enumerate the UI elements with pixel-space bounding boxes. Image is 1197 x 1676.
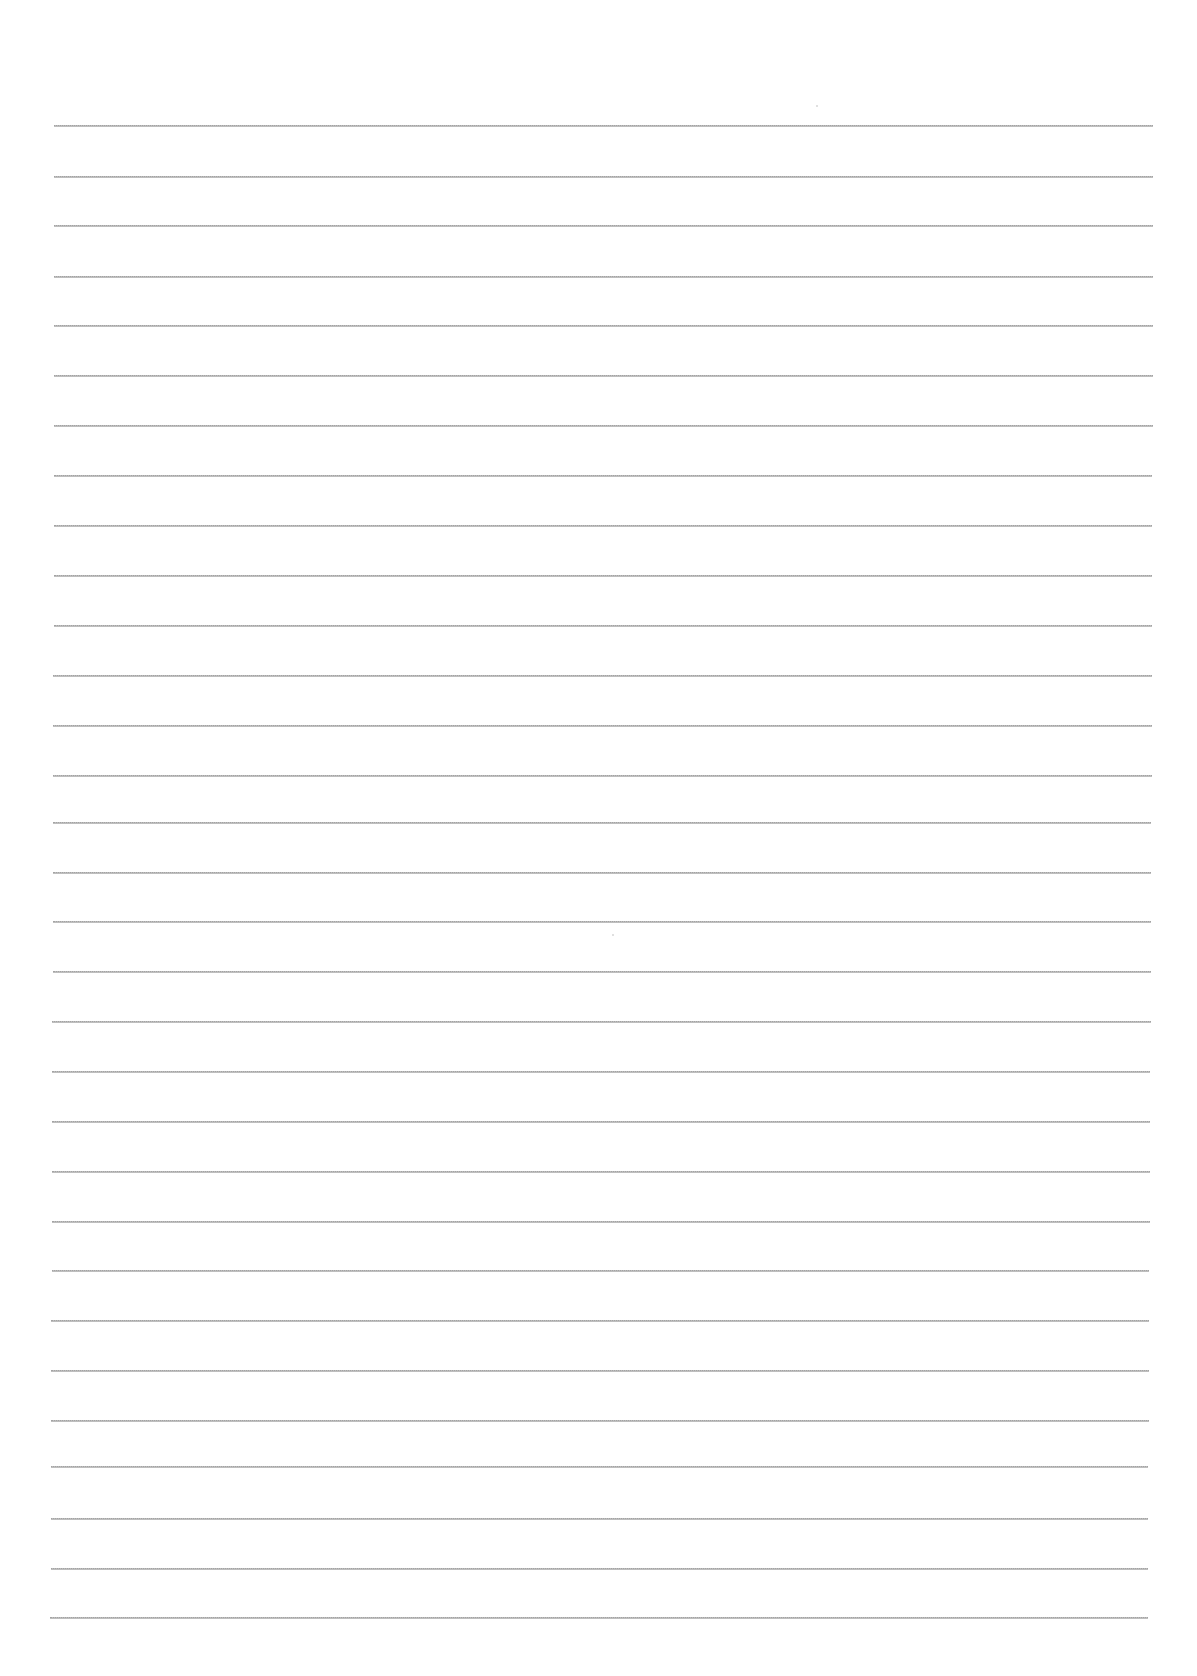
ruled-line [53,921,1151,923]
ruled-line [52,1021,1151,1023]
ruled-line [54,125,1153,127]
ruled-line [54,575,1152,577]
ruled-line [54,375,1153,377]
paper-speck [816,105,818,107]
ruled-line [54,625,1152,627]
ruled-line [52,1121,1150,1123]
ruled-line [54,425,1153,427]
ruled-line [53,775,1152,777]
ruled-line [54,225,1153,227]
ruled-line [51,1320,1149,1322]
ruled-line [53,822,1151,824]
lined-paper-page [0,0,1197,1676]
ruled-line [54,475,1152,477]
ruled-line [54,176,1153,178]
ruled-line [54,525,1152,527]
ruled-line [53,971,1151,973]
ruled-line [52,1071,1150,1073]
ruled-line [52,1171,1150,1173]
ruled-line [51,1568,1148,1570]
ruled-line [53,725,1152,727]
ruled-line [51,1420,1149,1422]
ruled-line [54,276,1153,278]
ruled-line [54,325,1153,327]
ruled-line [51,1518,1148,1520]
ruled-line [52,1270,1149,1272]
ruled-line [51,1466,1148,1468]
ruled-line [53,872,1151,874]
ruled-line [53,675,1152,677]
paper-speck [612,934,614,936]
ruled-line [51,1370,1149,1372]
ruled-line [52,1221,1150,1223]
ruled-line [50,1617,1148,1619]
